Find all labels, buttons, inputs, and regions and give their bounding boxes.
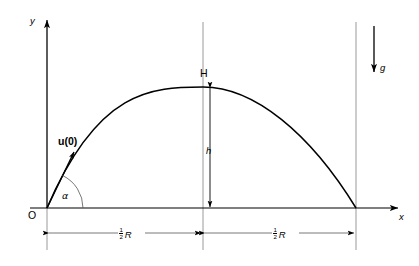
x-axis-label: x — [399, 212, 404, 222]
origin-label: O — [28, 210, 36, 221]
max-height-label: h — [206, 146, 211, 156]
launch-angle-label: α — [62, 191, 68, 201]
velocity-label: u(0) — [58, 136, 77, 147]
fraction-one-half-right: 1 2 — [273, 227, 277, 241]
gravity-label: g — [380, 63, 385, 73]
half-range-right-label: 1 2 R — [273, 227, 286, 241]
trajectory-curve — [47, 87, 356, 208]
apex-label: H — [200, 68, 208, 79]
projectile-diagram: y x O H h g u(0) α 1 2 R 1 2 R — [0, 0, 419, 266]
fraction-one-half-left: 1 2 — [119, 227, 123, 241]
range-symbol-right: R — [279, 229, 286, 240]
range-symbol-left: R — [125, 229, 132, 240]
half-range-left-label: 1 2 R — [119, 227, 132, 241]
diagram-canvas — [0, 0, 419, 266]
guide-lines — [47, 22, 356, 250]
y-axis-label: y — [30, 16, 35, 26]
